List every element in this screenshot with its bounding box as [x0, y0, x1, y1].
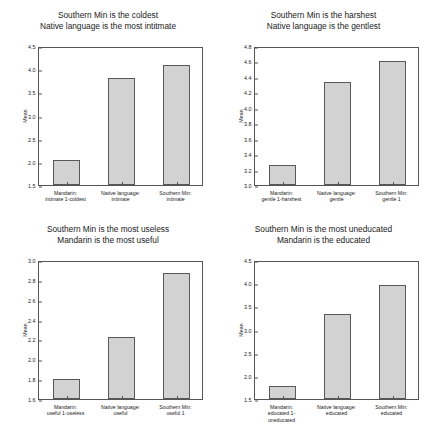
- y-tick-mark: [39, 140, 42, 141]
- x-tick-mark: [283, 182, 284, 185]
- chart-title-line: Southern Min is the harshest: [216, 10, 431, 21]
- x-tick-mark: [67, 396, 68, 399]
- x-tick-mark: [393, 182, 394, 185]
- x-tick-label: Mandarin:gentle 1-harshest: [261, 190, 301, 203]
- y-tick-label: 2.0: [28, 161, 39, 166]
- y-tick-mark: [39, 262, 42, 263]
- y-tick-mark: [255, 354, 258, 355]
- y-tick-mark: [39, 381, 42, 382]
- y-tick-label: 1.6: [28, 398, 39, 403]
- y-tick-label: 4.0: [244, 282, 255, 287]
- chart-title-2: Southern Min is the most uselessMandarin…: [0, 224, 216, 245]
- x-tick-mark: [67, 182, 68, 185]
- bar: [379, 61, 405, 185]
- y-tick-mark: [39, 71, 42, 72]
- y-tick-label: 2.2: [28, 339, 39, 344]
- chart-title-line: Southern Min is the most useless: [0, 224, 216, 235]
- y-tick-label: 3.0: [244, 329, 255, 334]
- y-tick-mark: [255, 262, 258, 263]
- x-tick-label-line: gentle: [317, 196, 356, 203]
- x-tick-mark: [177, 396, 178, 399]
- plot-area-2: 1.61.82.02.22.42.62.83.0: [38, 261, 203, 400]
- x-tick-label-line: useful 1: [159, 410, 191, 417]
- x-tick-mark: [338, 396, 339, 399]
- bar: [108, 78, 134, 185]
- x-tick-label-line: Mandarin:: [45, 190, 86, 197]
- y-tick-label: 2.6: [28, 299, 39, 304]
- chart-panel-1: Southern Min is the harshestNative langu…: [216, 0, 431, 214]
- bar: [324, 314, 350, 399]
- y-tick-mark: [39, 301, 42, 302]
- y-tick-label: 3.6: [244, 138, 255, 143]
- x-tick-label-line: intimate 1-coldest: [45, 196, 86, 203]
- x-tick-label-line: intimate: [101, 196, 140, 203]
- x-tick-label-line: Native language:: [317, 404, 356, 411]
- x-tick-label-line: uneducated: [268, 417, 295, 424]
- y-tick-mark: [255, 63, 258, 64]
- chart-title-line: Mandarin is the educated: [216, 235, 431, 246]
- y-tick-label: 1.8: [28, 378, 39, 383]
- x-tick-label-line: Southern Min:: [375, 404, 407, 411]
- y-tick-mark: [255, 125, 258, 126]
- x-tick-label: Native language:gentle: [317, 190, 356, 203]
- x-tick-label: Southern Min:gentle 1: [375, 190, 407, 203]
- y-tick-mark: [39, 117, 42, 118]
- x-tick-mark: [177, 182, 178, 185]
- x-tick-label: Mandarin:educated 1-uneducated: [268, 404, 295, 424]
- x-tick-label-line: Southern Min:: [375, 190, 407, 197]
- y-tick-mark: [39, 401, 42, 402]
- y-tick-label: 2.4: [28, 319, 39, 324]
- y-tick-label: 3.0: [28, 259, 39, 264]
- x-tick-label-line: educated: [317, 410, 356, 417]
- x-tick-label-line: intimate: [159, 196, 191, 203]
- y-tick-label: 3.4: [244, 153, 255, 158]
- x-tick-label: Native language:useful: [101, 404, 140, 417]
- y-tick-mark: [39, 48, 42, 49]
- chart-panel-2: Southern Min is the most uselessMandarin…: [0, 214, 216, 428]
- chart-title-line: Southern Min is the most uneducated: [216, 224, 431, 235]
- x-tick-label-line: Southern Min:: [159, 404, 191, 411]
- chart-panel-0: Southern Min is the coldestNative langua…: [0, 0, 216, 214]
- x-tick-label-line: Native language:: [101, 404, 140, 411]
- y-tick-mark: [255, 171, 258, 172]
- y-tick-mark: [255, 308, 258, 309]
- x-tick-label: Southern Min:useful 1: [159, 404, 191, 417]
- y-tick-label: 3.5: [244, 306, 255, 311]
- x-tick-label: Southern Min:intimate: [159, 190, 191, 203]
- x-tick-mark: [122, 182, 123, 185]
- y-tick-label: 1.5: [28, 184, 39, 189]
- x-tick-mark: [393, 396, 394, 399]
- y-tick-mark: [39, 341, 42, 342]
- y-tick-mark: [255, 401, 258, 402]
- y-tick-label: 4.2: [244, 92, 255, 97]
- x-tick-mark: [122, 396, 123, 399]
- y-tick-mark: [255, 285, 258, 286]
- y-tick-mark: [255, 331, 258, 332]
- x-tick-label-line: Mandarin:: [261, 190, 301, 197]
- y-tick-label: 4.5: [28, 45, 39, 50]
- y-tick-mark: [39, 94, 42, 95]
- y-tick-label: 2.0: [28, 359, 39, 364]
- chart-title-line: Southern Min is the coldest: [0, 10, 216, 21]
- y-tick-mark: [39, 163, 42, 164]
- x-tick-label-line: useful 1-useless: [47, 410, 85, 417]
- y-tick-mark: [255, 109, 258, 110]
- y-tick-mark: [255, 48, 258, 49]
- y-tick-label: 3.2: [244, 169, 255, 174]
- bar: [53, 160, 79, 185]
- y-tick-label: 4.5: [244, 259, 255, 264]
- plot-area-3: 1.52.02.53.03.54.04.5: [254, 261, 419, 400]
- y-tick-mark: [255, 156, 258, 157]
- y-tick-mark: [255, 94, 258, 95]
- y-tick-label: 1.5: [244, 398, 255, 403]
- x-tick-label: Native language:intimate: [101, 190, 140, 203]
- chart-title-0: Southern Min is the coldestNative langua…: [0, 10, 216, 31]
- x-tick-label-line: useful: [101, 410, 140, 417]
- chart-title-line: Native language is the gentlest: [216, 21, 431, 32]
- y-tick-label: 4.0: [244, 107, 255, 112]
- y-tick-label: 3.8: [244, 123, 255, 128]
- chart-title-1: Southern Min is the harshestNative langu…: [216, 10, 431, 31]
- y-tick-label: 4.4: [244, 76, 255, 81]
- plot-area-1: 3.03.23.43.63.84.04.24.44.64.8: [254, 47, 419, 186]
- y-tick-mark: [255, 187, 258, 188]
